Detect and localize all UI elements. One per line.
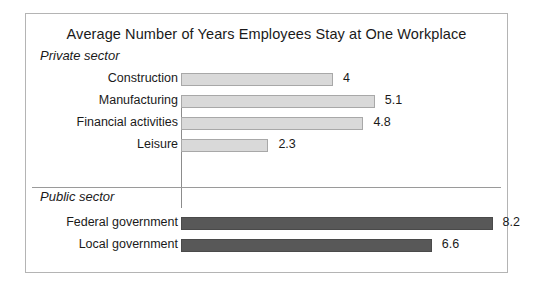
bar-label-federal-government: Federal government — [26, 215, 178, 229]
bar-value-leisure: 2.3 — [278, 137, 295, 151]
bar-label-manufacturing: Manufacturing — [26, 93, 178, 107]
bar-value-financial-activities: 4.8 — [373, 115, 390, 129]
section-heading-private: Private sector — [40, 48, 119, 63]
bar-value-local-government: 6.6 — [442, 237, 459, 251]
bar-row-financial-activities: Financial activities 4.8 — [26, 117, 507, 130]
bar-label-construction: Construction — [26, 71, 178, 85]
bar-leisure — [181, 139, 268, 152]
bar-row-construction: Construction 4 — [26, 73, 507, 86]
section-heading-public: Public sector — [40, 189, 114, 204]
bar-value-construction: 4 — [343, 71, 350, 85]
chart-frame: Average Number of Years Employees Stay a… — [25, 13, 508, 273]
bar-row-federal-government: Federal government 8.2 — [26, 217, 507, 230]
bar-row-local-government: Local government 6.6 — [26, 239, 507, 252]
bar-federal-government — [181, 217, 493, 230]
bar-label-local-government: Local government — [26, 237, 178, 251]
bar-value-manufacturing: 5.1 — [385, 93, 402, 107]
bar-row-manufacturing: Manufacturing 5.1 — [26, 95, 507, 108]
bar-manufacturing — [181, 95, 375, 108]
bar-label-leisure: Leisure — [26, 137, 178, 151]
bar-label-financial-activities: Financial activities — [26, 115, 178, 129]
bar-construction — [181, 73, 333, 86]
section-divider — [32, 187, 501, 188]
chart-title: Average Number of Years Employees Stay a… — [26, 26, 507, 42]
bar-financial-activities — [181, 117, 363, 130]
bar-local-government — [181, 239, 432, 252]
bar-value-federal-government: 8.2 — [503, 215, 520, 229]
bar-row-leisure: Leisure 2.3 — [26, 139, 507, 152]
